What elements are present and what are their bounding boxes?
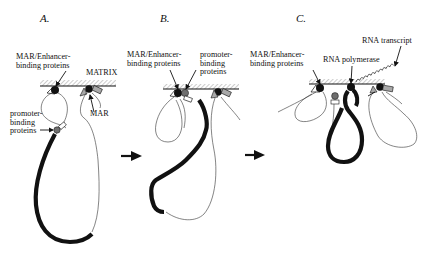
panel-b: [151, 70, 240, 220]
panel-letter-a: A.: [40, 12, 49, 24]
mar-protein-icon: [370, 86, 377, 93]
mar-protein-icon: [92, 85, 102, 93]
dna-strand: [221, 97, 240, 120]
matrix-hatch: [163, 84, 239, 89]
mar-binding-protein-icon: [174, 89, 182, 97]
label-mar: MAR: [90, 110, 109, 119]
gene-segment: [151, 100, 207, 212]
mar-binding-protein-icon: [51, 86, 59, 94]
pointer-arrow: [395, 46, 401, 66]
label-line: proteins: [10, 127, 43, 136]
dna-strand: [92, 93, 101, 108]
mar-binding-protein-icon: [316, 84, 324, 92]
panel-a: [36, 71, 116, 242]
dna-strand: [156, 97, 183, 142]
label-line: proteins: [200, 68, 233, 77]
gene-segment: [36, 134, 92, 242]
panel-letter-c: C.: [296, 12, 306, 24]
label-line: binding proteins: [16, 62, 70, 71]
label-mar-enhancer-a: MAR/Enhancer- binding proteins: [16, 53, 70, 70]
label-rna-transcript: RNA transcript: [362, 37, 412, 46]
mar-protein-icon: [383, 85, 394, 92]
label-line: binding proteins: [127, 60, 181, 69]
chromatin-loop-diagram: A. B. C. MAR/Enhancer- binding proteins …: [0, 0, 432, 257]
gene-segment: [353, 90, 357, 106]
matrix-hatch: [40, 80, 116, 86]
dna-strand: [166, 98, 216, 220]
panel-letter-b: B.: [160, 12, 169, 24]
dna-strand: [386, 92, 402, 104]
promoter-binding-protein-icon: [332, 93, 339, 100]
promoter-protein-icon: [184, 96, 193, 102]
promoter-binding-protein-icon: [54, 127, 60, 133]
label-promoter-a: promoter- binding proteins: [10, 110, 43, 136]
promoter-protein-icon: [331, 100, 339, 104]
matrix-hatch: [309, 79, 385, 84]
label-mar-enhancer-c: MAR/Enhancer- binding proteins: [250, 51, 304, 68]
label-promoter-b: promoter- binding proteins: [200, 51, 233, 77]
transition-arrow-bc: [245, 150, 265, 160]
mar-protein-icon: [221, 88, 231, 96]
dna-strand: [41, 93, 66, 128]
label-line: binding proteins: [250, 60, 304, 69]
label-mar-enhancer-b: MAR/Enhancer- binding proteins: [127, 51, 181, 68]
transition-arrow-ab: [121, 151, 142, 161]
label-rna-polymerase: RNA polymerase: [323, 56, 380, 65]
mar-binding-protein-icon: [85, 85, 93, 93]
dna-strand: [369, 92, 417, 147]
dna-strand: [295, 92, 326, 122]
label-matrix: MATRIX: [86, 69, 117, 78]
